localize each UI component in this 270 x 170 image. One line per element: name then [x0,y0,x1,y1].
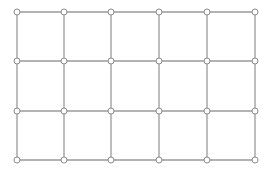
grid-node [14,157,20,163]
grid-node [61,108,67,114]
nodes-group [14,9,258,163]
grid-node [14,108,20,114]
grid-node [108,157,114,163]
grid-node [252,108,258,114]
grid-node [252,9,258,15]
grid-node [252,157,258,163]
grid-node [61,157,67,163]
grid-node [204,9,210,15]
grid-node [108,58,114,64]
grid-node [252,58,258,64]
grid-node [14,58,20,64]
grid-node [156,58,162,64]
grid-graph-svg [0,0,270,170]
grid-node [14,9,20,15]
grid-node [156,108,162,114]
grid-node [204,108,210,114]
grid-node [156,157,162,163]
grid-node [61,58,67,64]
grid-node [204,157,210,163]
grid-graph-diagram [0,0,270,170]
grid-node [61,9,67,15]
grid-node [108,9,114,15]
grid-node [204,58,210,64]
grid-node [156,9,162,15]
grid-node [108,108,114,114]
edges-group [17,12,255,160]
